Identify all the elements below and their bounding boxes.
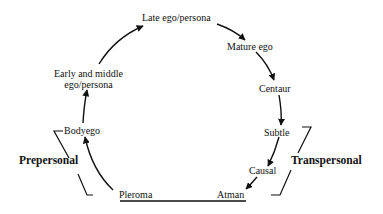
arrow-causal-atman	[246, 177, 257, 189]
group-prepersonal: Prepersonal	[19, 155, 78, 166]
node-bodyego: Bodyego	[64, 125, 100, 136]
arrow-early-late	[99, 26, 143, 64]
arrow-centaur-subtle	[279, 95, 281, 125]
node-subtle: Subtle	[264, 127, 290, 138]
arrow-pleroma-bodyego	[85, 137, 113, 190]
node-late-ego: Late ego/persona	[142, 12, 211, 23]
node-mature-ego: Mature ego	[227, 41, 273, 52]
node-centaur: Centaur	[259, 83, 291, 94]
node-atman: Atman	[217, 189, 244, 200]
arrow-subtle-causal	[268, 137, 279, 166]
node-early-line1: Early and middle	[54, 68, 123, 79]
node-causal: Causal	[249, 165, 276, 176]
arrow-late-mature	[217, 24, 245, 40]
arrow-mature-centaur	[256, 52, 274, 80]
node-early-line2: ego/persona	[54, 79, 123, 90]
diagram-lines	[0, 0, 383, 214]
node-early-middle: Early and middle ego/persona	[54, 68, 123, 90]
group-transpersonal: Transpersonal	[291, 155, 362, 166]
arrow-bodyego-early	[83, 90, 87, 123]
node-pleroma: Pleroma	[119, 189, 152, 200]
